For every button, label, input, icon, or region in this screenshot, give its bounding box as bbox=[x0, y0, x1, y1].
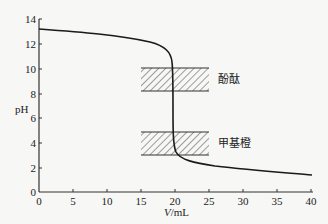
y-tick-2: 2 bbox=[31, 162, 37, 174]
y-axis-title: pH bbox=[15, 103, 29, 115]
y-tick-10: 10 bbox=[25, 63, 37, 75]
x-axis-title: V/mL bbox=[164, 206, 189, 218]
titration-chart: 0 2 4 6 8 10 12 14 0 5 10 15 20 25 30 35… bbox=[0, 0, 328, 224]
x-tick-15: 15 bbox=[136, 195, 148, 207]
x-axis-unit: /mL bbox=[171, 206, 190, 218]
x-tick-35: 35 bbox=[272, 195, 284, 207]
x-axis bbox=[39, 189, 313, 192]
y-tick-6: 6 bbox=[31, 112, 37, 124]
y-axis bbox=[39, 19, 42, 192]
y-tick-12: 12 bbox=[25, 38, 36, 50]
x-tick-5: 5 bbox=[70, 195, 76, 207]
x-tick-25: 25 bbox=[204, 195, 216, 207]
x-tick-30: 30 bbox=[238, 195, 250, 207]
phenolphthalein-band bbox=[141, 68, 209, 91]
y-tick-8: 8 bbox=[31, 88, 37, 100]
x-tick-0: 0 bbox=[36, 195, 42, 207]
x-tick-40: 40 bbox=[306, 195, 318, 207]
y-tick-14: 14 bbox=[25, 13, 37, 25]
methyl-orange-label: 甲基橙 bbox=[218, 136, 251, 150]
phenolphthalein-label: 酚酞 bbox=[218, 72, 240, 86]
x-tick-10: 10 bbox=[102, 195, 114, 207]
y-tick-4: 4 bbox=[31, 137, 37, 149]
